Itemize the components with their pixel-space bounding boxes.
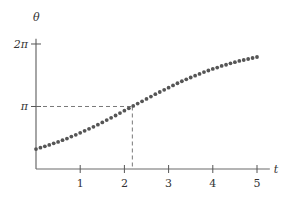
y-tick-label: 2π bbox=[13, 38, 29, 51]
data-point bbox=[136, 102, 140, 106]
ticks: 12345π2π bbox=[13, 38, 261, 190]
y-axis-label: θ bbox=[33, 11, 40, 24]
data-point bbox=[220, 64, 224, 68]
data-point bbox=[123, 109, 127, 113]
data-point bbox=[171, 84, 175, 88]
data-point bbox=[184, 77, 188, 81]
data-point bbox=[215, 66, 219, 70]
data-point bbox=[140, 99, 144, 103]
data-point bbox=[229, 61, 233, 65]
data-point bbox=[193, 74, 197, 78]
data-point bbox=[251, 56, 255, 60]
data-point bbox=[162, 88, 166, 92]
data-point bbox=[83, 129, 87, 133]
data-point bbox=[100, 121, 104, 125]
y-tick-label: π bbox=[20, 100, 29, 113]
data-point bbox=[153, 92, 157, 96]
data-point bbox=[39, 146, 43, 150]
data-point bbox=[224, 63, 228, 67]
data-point bbox=[74, 133, 78, 137]
x-tick-label: 3 bbox=[165, 177, 172, 190]
data-point bbox=[114, 114, 118, 118]
data-point bbox=[246, 57, 250, 61]
x-axis-label: t bbox=[274, 163, 279, 176]
data-point bbox=[242, 58, 246, 62]
data-point bbox=[211, 67, 215, 71]
data-point bbox=[43, 144, 47, 148]
data-point bbox=[61, 138, 65, 142]
data-point bbox=[255, 55, 259, 59]
data-point bbox=[69, 135, 73, 139]
data-point bbox=[47, 143, 51, 147]
data-point bbox=[52, 141, 56, 145]
data-point bbox=[78, 131, 82, 135]
data-point bbox=[127, 106, 131, 110]
data-point bbox=[158, 90, 162, 94]
data-point bbox=[149, 95, 153, 99]
x-tick-label: 5 bbox=[254, 177, 261, 190]
data-point bbox=[105, 118, 109, 122]
data-point bbox=[109, 116, 113, 120]
data-point bbox=[237, 59, 241, 63]
x-tick-label: 1 bbox=[77, 177, 84, 190]
data-point bbox=[180, 79, 184, 83]
data-point bbox=[167, 86, 171, 90]
data-point bbox=[189, 76, 193, 80]
data-point bbox=[87, 127, 91, 131]
data-point bbox=[176, 81, 180, 85]
chart: t θ 12345π2π bbox=[0, 0, 287, 199]
data-point bbox=[65, 137, 69, 141]
data-point bbox=[202, 70, 206, 74]
data-points bbox=[34, 55, 259, 151]
data-point bbox=[233, 60, 237, 64]
data-point bbox=[96, 123, 100, 127]
data-point bbox=[206, 69, 210, 73]
data-point bbox=[145, 97, 149, 101]
data-point bbox=[131, 104, 135, 108]
x-tick-label: 4 bbox=[209, 177, 216, 190]
data-point bbox=[118, 111, 122, 115]
data-point bbox=[92, 125, 96, 129]
data-point bbox=[56, 140, 60, 144]
x-tick-label: 2 bbox=[121, 177, 128, 190]
data-point bbox=[34, 147, 38, 151]
guides bbox=[36, 106, 132, 169]
data-point bbox=[198, 72, 202, 76]
